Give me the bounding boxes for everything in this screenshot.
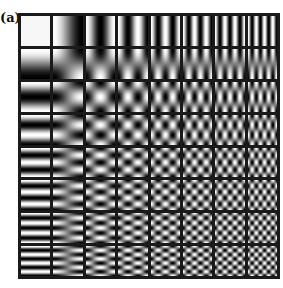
- dct-basis-grid: [18, 13, 280, 279]
- dct-basis-canvas: [18, 13, 280, 279]
